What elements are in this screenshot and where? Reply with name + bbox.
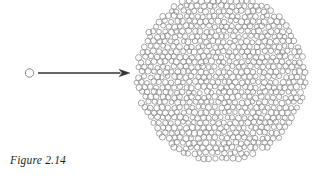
- figure-caption: Figure 2.14: [10, 153, 66, 167]
- figure-container: Figure 2.14: [0, 0, 317, 186]
